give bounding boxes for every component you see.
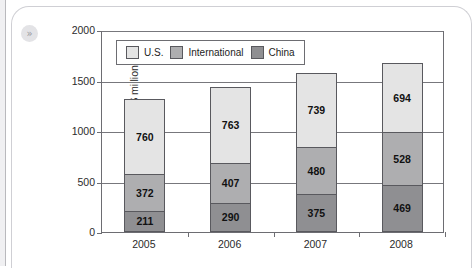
legend-label: U.S.	[144, 47, 163, 58]
bar-segment-china[interactable]: 375	[296, 194, 337, 232]
x-axis-tick-label-2008: 2008	[371, 238, 431, 250]
legend-item-china[interactable]: China	[251, 46, 295, 59]
y-axis-tick-label: 0	[89, 226, 95, 238]
bar-segment-international[interactable]: 480	[296, 147, 337, 195]
x-axis-tick-mark	[359, 232, 360, 237]
legend-item-international[interactable]: International	[170, 46, 243, 59]
bar-segment-china[interactable]: 469	[382, 185, 423, 232]
bar-2007[interactable]: 739480375	[296, 73, 337, 232]
bar-segment-value-label: 760	[136, 132, 154, 143]
x-axis-tick-mark	[274, 232, 275, 237]
bar-segment-international[interactable]: 528	[382, 132, 423, 185]
bar-segment-value-label: 469	[393, 203, 411, 214]
y-axis-tick-mark	[97, 82, 102, 83]
legend-label: China	[269, 47, 295, 58]
bar-segment-value-label: 375	[308, 208, 326, 219]
gridline	[102, 31, 443, 32]
bar-segment-us[interactable]: 763	[210, 87, 251, 164]
x-axis-tick-label-2005: 2005	[114, 238, 174, 250]
legend-swatch-icon	[126, 46, 139, 59]
bar-segment-value-label: 694	[393, 93, 411, 104]
y-axis-tick-labels: 0500100015002000	[58, 31, 95, 233]
bar-segment-value-label: 763	[222, 120, 240, 131]
y-axis-tick-mark	[97, 132, 102, 133]
bar-segment-value-label: 480	[308, 166, 326, 177]
bar-segment-value-label: 739	[308, 105, 326, 116]
legend-swatch-icon	[251, 46, 264, 59]
bar-segment-china[interactable]: 211	[124, 211, 165, 232]
bar-segment-value-label: 528	[393, 154, 411, 165]
y-axis-tick-mark	[97, 233, 102, 234]
y-axis-tick-mark	[97, 31, 102, 32]
x-axis-tick-mark	[188, 232, 189, 237]
bar-2005[interactable]: 760372211	[124, 99, 165, 232]
bar-segment-china[interactable]: 290	[210, 203, 251, 232]
chart-legend: U.S.InternationalChina	[116, 40, 305, 65]
bar-segment-value-label: 290	[222, 212, 240, 223]
bar-segment-us[interactable]: 739	[296, 73, 337, 148]
bar-segment-us[interactable]: 760	[124, 99, 165, 176]
bar-segment-value-label: 372	[136, 188, 154, 199]
bar-segment-value-label: 407	[222, 178, 240, 189]
legend-item-us[interactable]: U.S.	[126, 46, 163, 59]
bar-segment-international[interactable]: 372	[124, 174, 165, 212]
y-axis-tick-mark	[97, 183, 102, 184]
x-axis-tick-label-2006: 2006	[200, 238, 260, 250]
bar-segment-value-label: 211	[136, 216, 153, 227]
bar-segment-international[interactable]: 407	[210, 163, 251, 204]
y-axis-tick-label: 1500	[72, 75, 95, 87]
y-axis-tick-label: 1000	[72, 125, 95, 137]
legend-swatch-icon	[170, 46, 183, 59]
y-axis-tick-label: 2000	[72, 24, 95, 36]
legend-label: International	[188, 47, 243, 58]
x-axis-tick-label-2007: 2007	[285, 238, 345, 250]
y-axis-tick-label: 500	[77, 176, 95, 188]
bar-2008[interactable]: 694528469	[382, 63, 423, 232]
bar-2006[interactable]: 763407290	[210, 87, 251, 232]
x-axis-tick-mark	[445, 232, 446, 237]
bar-segment-us[interactable]: 694	[382, 63, 423, 133]
